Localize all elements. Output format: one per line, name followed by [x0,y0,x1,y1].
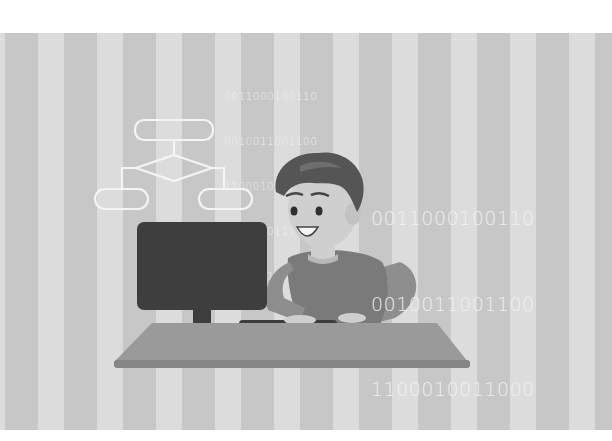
striped-background: 0011000100110 0010011001100 110001001100… [0,33,612,430]
flowchart-left-box [95,189,148,209]
monitor-screen [137,222,267,310]
binary-line: 1100010011000 [371,375,536,404]
binary-line: 0010011001100 [371,290,536,319]
flowchart-connector-left [122,168,136,189]
boy-hand-right [338,313,366,323]
flowchart-diamond [136,155,212,181]
binary-line: 0011000100110 [371,204,536,233]
boy-eye-right [316,207,323,216]
flowchart-right-box [199,189,252,209]
boy-eye-left [291,207,298,216]
flowchart-top-box [135,120,213,140]
binary-code-large: 0011000100110 0010011001100 110001001100… [371,147,536,430]
flowchart-connector-right [212,168,224,189]
flowchart-icon [95,120,252,209]
